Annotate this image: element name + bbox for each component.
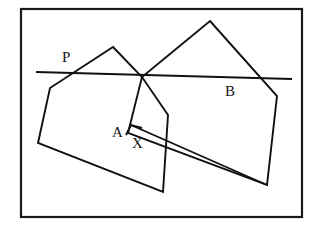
- figure-container: P A X B: [0, 0, 322, 232]
- polygon-a: [38, 47, 168, 192]
- polygon-b: [128, 21, 277, 185]
- label-x: X: [132, 136, 143, 151]
- label-a: A: [112, 125, 123, 140]
- cut-line: [36, 72, 292, 79]
- figure-frame: [21, 9, 302, 217]
- label-b: B: [225, 84, 235, 99]
- geometry-diagram: [0, 0, 322, 232]
- arrow-shaft: [131, 125, 267, 185]
- label-p: P: [62, 50, 70, 65]
